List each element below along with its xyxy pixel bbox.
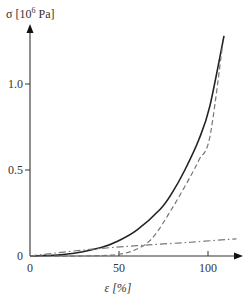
y-tick-label: 0 bbox=[17, 249, 23, 263]
series-solid bbox=[30, 36, 224, 256]
series-dash-dot bbox=[30, 239, 236, 256]
x-axis-arrow-icon bbox=[234, 253, 243, 260]
x-axis-label: ε [%] bbox=[104, 281, 131, 295]
y-axis-arrow-icon bbox=[27, 24, 34, 33]
y-axis bbox=[27, 24, 34, 256]
x-tick-label: 100 bbox=[199, 261, 217, 275]
y-tick-label: 1.0 bbox=[8, 77, 23, 91]
y-tick-label: 0.5 bbox=[8, 163, 23, 177]
chart: σ [106 Pa] ε [%] 05010000.51.0 bbox=[0, 0, 244, 299]
y-axis-label: σ [106 Pa] bbox=[6, 6, 54, 21]
x-tick-label: 0 bbox=[27, 261, 33, 275]
x-axis bbox=[30, 253, 243, 260]
x-tick-label: 50 bbox=[113, 261, 125, 275]
